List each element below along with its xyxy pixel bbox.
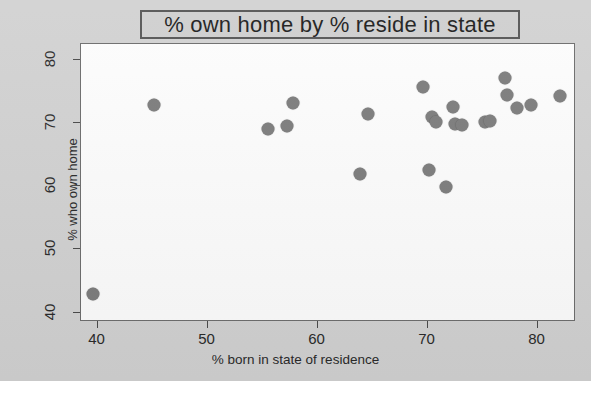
x-tick-mark bbox=[427, 321, 428, 328]
y-tick-label-wrap: 80 bbox=[32, 51, 66, 67]
x-axis-title: % born in state of residence bbox=[0, 352, 591, 367]
data-point bbox=[287, 96, 300, 109]
data-point bbox=[500, 89, 513, 102]
figure-canvas: % own home by % reside in state % who ow… bbox=[0, 0, 591, 381]
data-point bbox=[510, 101, 523, 114]
data-point bbox=[430, 116, 443, 129]
x-tick-label: 70 bbox=[407, 330, 447, 347]
data-point bbox=[280, 120, 293, 133]
x-tick-mark bbox=[97, 321, 98, 328]
scatter-series bbox=[81, 44, 574, 320]
data-point bbox=[87, 287, 100, 300]
data-point bbox=[422, 163, 435, 176]
y-tick-mark bbox=[73, 248, 80, 249]
data-point bbox=[553, 90, 566, 103]
y-tick-mark bbox=[73, 122, 80, 123]
y-tick-mark bbox=[73, 185, 80, 186]
x-tick-label: 80 bbox=[517, 330, 557, 347]
data-point bbox=[440, 180, 453, 193]
x-tick-label: 50 bbox=[187, 330, 227, 347]
y-tick-mark bbox=[73, 59, 80, 60]
y-tick-label: 60 bbox=[41, 168, 58, 202]
data-point bbox=[417, 80, 430, 93]
data-point bbox=[446, 100, 459, 113]
data-point bbox=[362, 107, 375, 120]
x-tick-mark bbox=[537, 321, 538, 328]
y-tick-label-wrap: 60 bbox=[32, 177, 66, 193]
data-point bbox=[484, 115, 497, 128]
chart-title: % own home by % reside in state bbox=[142, 12, 518, 37]
screenshot-root: % own home by % reside in state % who ow… bbox=[0, 0, 605, 412]
x-tick-mark bbox=[207, 321, 208, 328]
data-point bbox=[498, 72, 511, 85]
y-tick-label: 50 bbox=[41, 231, 58, 265]
y-tick-label-wrap: 70 bbox=[32, 114, 66, 130]
y-tick-label: 80 bbox=[41, 42, 58, 76]
data-point bbox=[524, 98, 537, 111]
y-tick-mark bbox=[73, 312, 80, 313]
plot-area bbox=[80, 43, 575, 321]
y-axis-title: % who own home bbox=[65, 110, 80, 270]
y-tick-label: 70 bbox=[41, 105, 58, 139]
data-point bbox=[455, 118, 468, 131]
y-tick-label: 40 bbox=[41, 295, 58, 329]
x-tick-mark bbox=[317, 321, 318, 328]
x-tick-label: 60 bbox=[297, 330, 337, 347]
y-tick-label-wrap: 40 bbox=[32, 304, 66, 320]
data-point bbox=[262, 123, 275, 136]
data-point bbox=[147, 99, 160, 112]
x-tick-label: 40 bbox=[77, 330, 117, 347]
chart-title-box: % own home by % reside in state bbox=[140, 10, 520, 39]
data-point bbox=[354, 167, 367, 180]
y-tick-label-wrap: 50 bbox=[32, 240, 66, 256]
